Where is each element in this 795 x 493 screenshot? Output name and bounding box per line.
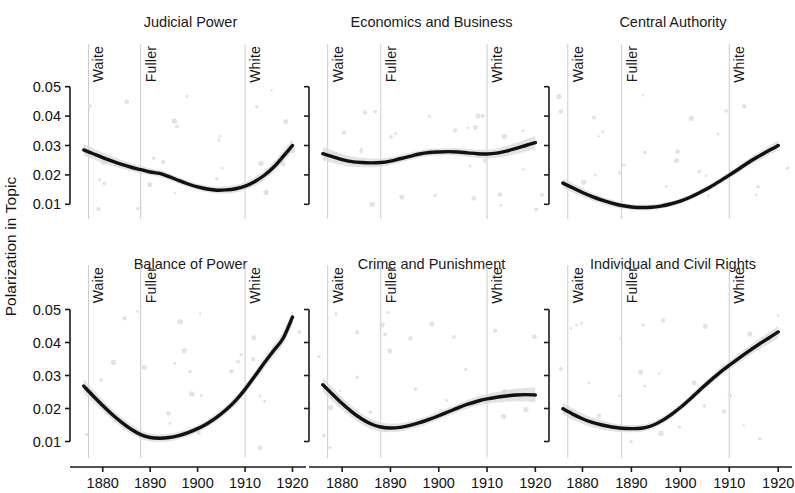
scatter-point [334,312,337,315]
reference-label-white: White [731,267,747,304]
scatter-point [619,337,621,339]
scatter-point [408,336,413,341]
trend-line [563,146,778,208]
x-tick-label: 1920 [276,475,308,491]
scatter-point [675,149,680,154]
scatter-point [142,365,147,370]
scatter-point [197,431,201,435]
scatter-point [497,192,502,197]
scatter-point [363,110,368,115]
reference-label-waite: Waite [570,46,586,82]
scatter-point [556,94,561,99]
scatter-point [251,335,256,340]
x-tick-label: 1890 [134,475,166,491]
scatter-point [217,139,220,142]
x-tick-label: 1910 [471,475,503,491]
scatter-point [481,114,485,118]
scatter-point [258,394,261,397]
scatter-point [727,393,732,398]
scatter-point [136,310,139,313]
scatter-point [638,370,643,375]
scatter-point [182,348,187,353]
scatter-point [342,130,346,134]
scatter-point [534,208,538,212]
scatter-point [771,148,774,151]
scatter-point [629,440,632,443]
scatter-point [522,168,524,170]
scatter-point [251,357,255,361]
scatter-point [339,390,341,392]
panel-title: Judicial Power [69,14,312,30]
scatter-point [692,380,697,385]
scatter-point [658,372,660,374]
scatter-point [643,385,646,388]
scatter-point [703,404,707,408]
scatter-point [270,89,273,92]
scatter-point [369,410,373,414]
scatter-point [777,314,780,317]
reference-label-waite: Waite [90,267,106,303]
scatter-point [399,194,404,199]
trend-line [323,385,536,428]
scatter-point [258,161,263,166]
reference-label-white: White [247,267,263,304]
scatter-point [501,414,506,419]
reference-label-fuller: Fuller [143,267,159,303]
scatter-point [287,149,291,153]
scatter-point [173,362,176,365]
scatter-point [317,355,320,358]
scatter-point [580,321,583,324]
scatter-point [473,125,478,130]
scatter-point [468,164,471,167]
y-tick-label: 0.03 [1,138,61,154]
scatter-point [587,382,590,385]
x-tick-label: 1910 [713,475,745,491]
scatter-point [383,332,387,336]
scatter-point [258,446,263,451]
panel-individual-and-civil-rights: Individual and Civil Rights1880189019001… [0,0,795,493]
reference-label-waite: Waite [570,267,586,303]
scatter-point [523,407,528,412]
panel-title: Individual and Civil Rights [548,256,795,272]
scatter-point [742,104,747,109]
scatter-point [786,166,790,170]
scatter-point [429,322,434,327]
scatter-point [758,437,762,441]
scatter-point [724,109,728,113]
scatter-point [500,204,503,207]
panel-judicial-power: Judicial Power0.010.020.030.040.05WaiteF… [0,0,795,493]
confidence-band [323,377,536,432]
scatter-point [152,156,156,160]
y-tick-label: 0.05 [1,302,61,318]
y-tick-label: 0.04 [1,335,61,351]
x-tick-label: 1880 [87,475,119,491]
x-tick-label: 1900 [664,475,696,491]
panel-plot [0,0,795,493]
scatter-point [369,202,375,208]
scatter-point [239,353,242,356]
scatter-point [569,327,572,330]
reference-label-fuller: Fuller [383,267,399,303]
scatter-point [540,193,544,197]
reference-label-fuller: Fuller [143,46,159,82]
scatter-point [428,115,431,118]
scatter-point [175,124,179,128]
confidence-band [563,140,778,210]
scatter-point [336,399,338,401]
scatter-point [218,135,221,138]
trend-line [84,146,293,191]
scatter-point [532,334,537,339]
scatter-point [297,330,301,334]
scatter-point [382,428,386,432]
scatter-point [168,422,171,425]
scatter-point [493,329,497,333]
scatter-point [597,414,602,419]
x-tick-label: 1900 [181,475,213,491]
scatter-point [749,161,753,165]
scatter-point [386,311,389,314]
x-tick-label: 1900 [423,475,455,491]
panel-central-authority: Central AuthorityWaiteFullerWhite [0,0,795,493]
scatter-point [622,164,625,167]
scatter-point [387,348,392,353]
scatter-point [188,370,192,374]
